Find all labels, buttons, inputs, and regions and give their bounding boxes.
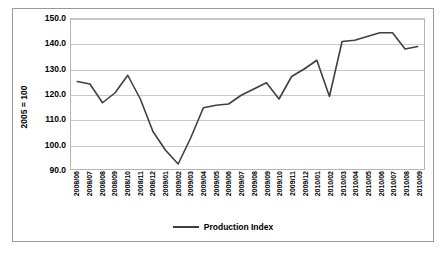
x-axis-tick-labels: 2008/062008/072008/082008/092008/102008/… <box>70 171 425 215</box>
x-axis-tick-label-text: 2008/07 <box>86 171 94 215</box>
y-axis-tick-label: 130.0 <box>26 64 66 74</box>
x-axis-tick-label-text: 2009/03 <box>187 171 195 215</box>
x-axis-tick-label-text: 2009/07 <box>238 171 246 215</box>
x-axis-tick-label-text: 2009/06 <box>225 171 233 215</box>
chart-legend: Production Index <box>0 222 446 232</box>
x-axis-tick-label-text: 2010/03 <box>340 171 348 215</box>
x-axis-tick-label-text: 2009/09 <box>264 171 272 215</box>
x-axis-tick-label-text: 2010/08 <box>403 171 411 215</box>
y-axis-tick-label: 140.0 <box>26 38 66 48</box>
x-axis-tick-label-text: 2008/12 <box>149 171 157 215</box>
x-axis-tick-label-text: 2010/01 <box>314 171 322 215</box>
x-axis-tick-label: 2010/09 <box>416 171 446 215</box>
y-axis-tick-label: 120.0 <box>26 89 66 99</box>
x-axis-tick-label-text: 2009/05 <box>213 171 221 215</box>
legend-label-production-index: Production Index <box>204 222 273 232</box>
x-axis-tick-label-text: 2008/11 <box>137 171 145 215</box>
x-axis-tick-label-text: 2008/10 <box>124 171 132 215</box>
y-axis-tick-label: 100.0 <box>26 140 66 150</box>
x-axis-tick-label-text: 2009/01 <box>162 171 170 215</box>
x-axis-tick-label-text: 2009/12 <box>302 171 310 215</box>
y-axis-tick-label: 150.0 <box>26 13 66 23</box>
x-axis-tick-label-text: 2010/06 <box>378 171 386 215</box>
x-axis-tick-label-text: 2010/04 <box>352 171 360 215</box>
chart-figure: 2005 = 100 150.0140.0130.0120.0110.0100.… <box>0 0 446 258</box>
x-axis-tick-label-text: 2010/02 <box>327 171 335 215</box>
x-axis-tick-label-text: 2010/05 <box>365 171 373 215</box>
x-axis-tick-label-text: 2009/04 <box>200 171 208 215</box>
x-axis-tick-label-text: 2009/08 <box>251 171 259 215</box>
x-axis-tick-label-text: 2010/09 <box>416 171 424 215</box>
y-axis-tick-labels: 150.0140.0130.0120.0110.0100.090.0 <box>26 14 66 174</box>
legend-line-swatch <box>173 226 199 228</box>
plot-area <box>70 18 425 170</box>
x-axis-tick-label-text: 2009/02 <box>175 171 183 215</box>
y-axis-tick-label: 90.0 <box>26 165 66 175</box>
x-axis-tick-label-text: 2010/07 <box>390 171 398 215</box>
x-axis-tick-label-text: 2008/09 <box>111 171 119 215</box>
x-axis-tick-label-text: 2009/11 <box>289 171 297 215</box>
series-line-production-index <box>71 19 424 169</box>
x-axis-tick-label-text: 2008/08 <box>99 171 107 215</box>
x-axis-tick-label-text: 2009/10 <box>276 171 284 215</box>
x-axis-tick-label-text: 2008/06 <box>73 171 81 215</box>
y-axis-tick-label: 110.0 <box>26 114 66 124</box>
